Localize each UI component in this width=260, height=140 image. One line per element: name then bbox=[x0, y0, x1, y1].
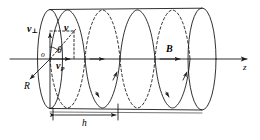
helix-front-arc-4 bbox=[155, 59, 190, 108]
helix-direction-arrow-1 bbox=[96, 92, 99, 97]
helix-front-arc-3 bbox=[120, 10, 155, 59]
perp-symbol: ⊥ bbox=[31, 27, 37, 34]
v-parallel-label: vP bbox=[56, 61, 64, 72]
helical-motion-figure: v⊥ v vP θ o B z R h bbox=[0, 0, 260, 140]
z-axis-label: z bbox=[243, 63, 247, 72]
figure-canvas bbox=[0, 0, 260, 140]
v-perpendicular-label: v⊥ bbox=[27, 24, 38, 35]
helix-back-arc-2 bbox=[85, 10, 120, 59]
origin-label: o bbox=[41, 51, 45, 59]
helix-front-arc-1 bbox=[50, 10, 85, 59]
radius-vector bbox=[30, 59, 50, 79]
pitch-label: h bbox=[82, 119, 87, 129]
helix-direction-arrow-3 bbox=[166, 92, 169, 97]
helix-direction-arrow-4 bbox=[183, 72, 187, 80]
cylinder-bottom-echo bbox=[50, 112, 202, 113]
cylinder-top-line bbox=[50, 8, 202, 9]
parallel-subscript: P bbox=[60, 65, 64, 72]
v-total-label: v bbox=[64, 23, 68, 33]
cylinder-bottom-line bbox=[50, 109, 202, 111]
helix-direction-arrow-2 bbox=[113, 72, 117, 80]
radius-label: R bbox=[24, 82, 30, 92]
helix-front-arc-2 bbox=[85, 59, 120, 108]
magnetic-field-label: B bbox=[166, 44, 173, 54]
helix-back-arc-3 bbox=[120, 59, 155, 108]
theta-label: θ bbox=[57, 45, 62, 55]
